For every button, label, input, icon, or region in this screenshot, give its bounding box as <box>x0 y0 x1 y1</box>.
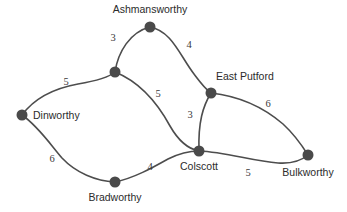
edge-weight-label: 5 <box>63 76 68 87</box>
graph-edge <box>22 115 115 182</box>
graph-edge <box>150 27 211 93</box>
graph-edge <box>211 93 308 155</box>
weighted-graph-diagram: 345536564 AshmansworthyDinworthyEast Put… <box>0 0 347 212</box>
graph-edge <box>199 93 211 151</box>
edge-weight-label: 5 <box>245 167 250 178</box>
graph-canvas: 345536564 AshmansworthyDinworthyEast Put… <box>0 0 347 212</box>
graph-node <box>110 177 121 188</box>
node-label-ashmansworthy: Ashmansworthy <box>113 3 188 15</box>
node-label-dinworthy: Dinworthy <box>33 109 80 121</box>
node-label-bradworthy: Bradworthy <box>88 191 142 203</box>
graph-node <box>145 22 156 33</box>
graph-node <box>194 146 205 157</box>
edge-weight-label: 5 <box>155 88 160 99</box>
node-label-east_putford: East Putford <box>216 70 274 82</box>
edge-weight-label: 6 <box>49 153 54 164</box>
node-labels-layer: AshmansworthyDinworthyEast PutfordColsco… <box>33 3 334 203</box>
edge-weight-label: 4 <box>147 161 153 172</box>
edge-weight-label: 3 <box>110 32 115 43</box>
edge-weight-label: 3 <box>187 109 192 120</box>
graph-node <box>17 110 28 121</box>
node-label-colscott: Colscott <box>180 160 218 172</box>
graph-edge <box>115 27 150 72</box>
edge-weight-label: 4 <box>186 39 192 50</box>
graph-node <box>303 150 314 161</box>
node-label-bulkworthy: Bulkworthy <box>282 166 334 178</box>
graph-node <box>206 88 217 99</box>
graph-node <box>110 67 121 78</box>
edge-weight-label: 6 <box>265 98 270 109</box>
